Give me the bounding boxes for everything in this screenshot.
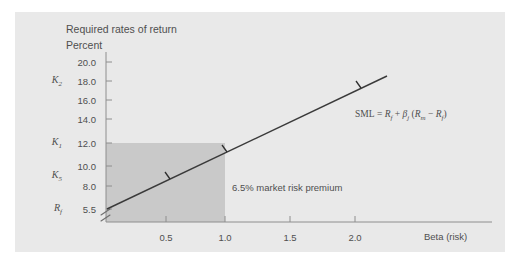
- x-axis-title: Beta (risk): [424, 232, 467, 242]
- y-tick-label: 20.0: [78, 57, 97, 68]
- sml-equation-market-sub: m: [421, 114, 426, 122]
- y-tick-label: 10.0: [78, 161, 97, 172]
- sml-equation-equals: =: [377, 109, 382, 119]
- sml-equation-intercept-sub: f: [390, 114, 392, 122]
- y-symbol-subscript: 2: [59, 80, 63, 88]
- sml-equation-label: SML = Rf + βj (Rm − Rf): [355, 110, 447, 122]
- y-tick-label: 18.0: [78, 76, 97, 87]
- x-tick-label: 1.5: [283, 232, 296, 243]
- sml-equation-plus: +: [395, 109, 400, 119]
- y-symbol-subscript: 1: [59, 142, 63, 150]
- y-symbol-char: K: [52, 136, 59, 147]
- y-symbol-label-k2: K2: [52, 74, 62, 88]
- sml-equation-lhs: SML: [355, 109, 375, 119]
- y-tick-label: 16.0: [78, 95, 97, 106]
- sml-equation-close-paren: ): [444, 109, 447, 119]
- y-symbol-char: K: [52, 74, 59, 85]
- y-symbol-label-group: K2 K1 K5 Rf: [20, 0, 62, 266]
- y-tick-label: 12.0: [78, 138, 97, 149]
- y-tick-label: 8.0: [83, 181, 96, 192]
- market-risk-premium-label: 6.5% market risk premium: [232, 183, 342, 193]
- y-symbol-subscript: 5: [59, 175, 63, 183]
- figure-container: Required rates of return Percent 20.0 18…: [0, 0, 525, 266]
- y-symbol-char: K: [52, 169, 59, 180]
- sml-equation-minus: −: [428, 109, 433, 119]
- y-symbol-label-k1: K1: [52, 136, 62, 150]
- x-tick-label: 0.5: [159, 232, 172, 243]
- x-tick-label: 1.0: [218, 232, 231, 243]
- y-tick-label: 14.0: [78, 114, 97, 125]
- y-symbol-label-k5: K5: [52, 169, 62, 183]
- sml-equation-beta-sub: j: [407, 114, 409, 122]
- x-tick-label: 2.0: [348, 232, 361, 243]
- y-symbol-label-rf: Rf: [54, 202, 62, 216]
- y-symbol-subscript: f: [60, 208, 62, 216]
- y-tick-label: 5.5: [83, 204, 96, 215]
- market-risk-premium-shade: [106, 143, 225, 222]
